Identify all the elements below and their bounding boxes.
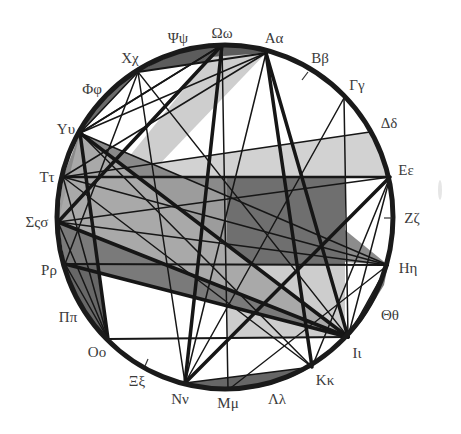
label-xi: Ξξ bbox=[129, 373, 146, 389]
label-tau: Ττ bbox=[39, 169, 54, 185]
label-nu: Νν bbox=[171, 391, 189, 407]
label-kappa: Κκ bbox=[316, 372, 335, 388]
label-omega: Ωω bbox=[211, 25, 232, 41]
tick-mark bbox=[145, 359, 148, 366]
label-epsilon: Εε bbox=[398, 162, 413, 178]
greek-letter-circle-diagram: Ψψ Ωω Αα Ββ Γγ Δδ Εε Ζζ Ηη Θθ Ιι Κκ Λλ Μ… bbox=[0, 0, 461, 434]
label-theta: Θθ bbox=[381, 307, 399, 323]
label-zeta: Ζζ bbox=[404, 210, 419, 226]
label-psi: Ψψ bbox=[168, 30, 189, 46]
label-omicron: Οο bbox=[88, 344, 106, 360]
chord-omicron-iota bbox=[108, 337, 348, 339]
label-pi: Ππ bbox=[59, 309, 78, 325]
label-upsilon: Υυ bbox=[57, 121, 75, 137]
scan-smudge bbox=[438, 180, 442, 200]
label-gamma: Γγ bbox=[349, 77, 365, 93]
label-iota: Ιι bbox=[352, 345, 361, 361]
label-sigma: Σςσ bbox=[26, 214, 49, 230]
label-mu: Μμ bbox=[217, 395, 238, 411]
label-alpha: Αα bbox=[265, 30, 284, 46]
label-rho: Ρρ bbox=[41, 262, 57, 278]
label-beta: Ββ bbox=[311, 50, 329, 66]
label-chi: Χχ bbox=[121, 50, 139, 66]
label-delta: Δδ bbox=[381, 115, 398, 131]
tick-mark bbox=[302, 72, 308, 80]
label-phi: Φφ bbox=[82, 81, 102, 97]
label-eta: Ηη bbox=[399, 260, 418, 276]
label-lambda: Λλ bbox=[268, 391, 287, 407]
